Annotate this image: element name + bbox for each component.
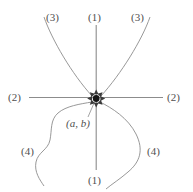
label-curve-1-top: (1) bbox=[88, 12, 101, 23]
label-curve-2-right: (2) bbox=[167, 92, 180, 103]
label-curve-4-right: (4) bbox=[147, 146, 160, 157]
curve-4-right bbox=[100, 102, 140, 189]
label-curve-1-bottom: (1) bbox=[88, 175, 101, 186]
curve-4-left bbox=[36, 102, 92, 186]
figure-canvas bbox=[0, 0, 193, 192]
curve-3-left bbox=[44, 17, 92, 96]
label-equilibrium-point: (a, b) bbox=[66, 118, 90, 129]
label-curve-3-right: (3) bbox=[131, 12, 144, 23]
curve-3-right bbox=[101, 17, 150, 96]
label-curve-3-left: (3) bbox=[46, 12, 59, 23]
equilibrium-point-marker bbox=[93, 95, 100, 102]
phase-portrait-figure: (3) (1) (3) (2) (2) (a, b) (4) (4) (1) bbox=[0, 0, 193, 192]
label-curve-2-left: (2) bbox=[8, 92, 21, 103]
label-curve-4-left: (4) bbox=[21, 146, 34, 157]
